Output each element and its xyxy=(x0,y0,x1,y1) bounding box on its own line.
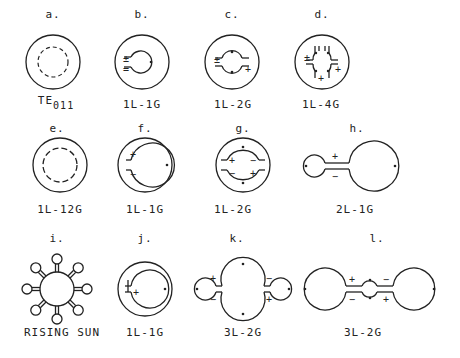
svg-text:−: − xyxy=(210,294,216,305)
panel-e-shape xyxy=(33,138,87,192)
panel-g-shape: + − − + xyxy=(216,138,270,192)
panel-k-shape: + − − + xyxy=(194,257,291,320)
svg-text:+: + xyxy=(130,149,136,160)
svg-text:−: − xyxy=(250,155,256,166)
svg-text:−: − xyxy=(130,169,136,180)
svg-text:−: − xyxy=(266,273,272,284)
svg-text:−: − xyxy=(383,274,389,285)
panel-f-shape: + − xyxy=(118,138,174,192)
svg-text:±: ± xyxy=(304,52,310,63)
svg-text:+: + xyxy=(349,274,355,285)
svg-text:+: + xyxy=(335,64,341,75)
svg-text:+: + xyxy=(383,294,389,305)
svg-text:+: + xyxy=(332,151,338,162)
svg-text:=: = xyxy=(123,64,129,75)
panel-a-shape xyxy=(26,35,80,89)
panel-i-shape xyxy=(22,254,92,324)
svg-text:−: − xyxy=(349,294,355,305)
panel-d-shape: ± + + xyxy=(295,35,349,89)
svg-text:+: + xyxy=(318,73,324,84)
panel-j-shape: + xyxy=(118,262,172,316)
svg-text:+: + xyxy=(245,64,251,75)
svg-text:−: − xyxy=(332,171,338,182)
svg-text:+: + xyxy=(133,287,139,298)
svg-text:+: + xyxy=(229,155,235,166)
panel-b-shape: ± = xyxy=(115,35,169,89)
panel-h-shape: + − xyxy=(303,141,398,191)
resonator-diagram: a. b. c. d. e. f. g. h. i. j. k. l. TE01… xyxy=(0,0,460,358)
svg-text:±: ± xyxy=(123,53,129,64)
panel-c-shape: ± + xyxy=(205,35,259,89)
svg-text:−: − xyxy=(229,168,235,179)
svg-text:+: + xyxy=(266,294,272,305)
panel-l-shape: + − − + xyxy=(304,268,436,310)
diagram-drawing: ± = ± + xyxy=(0,0,460,358)
svg-text:+: + xyxy=(210,273,216,284)
svg-text:+: + xyxy=(250,168,256,179)
svg-text:±: ± xyxy=(214,54,220,65)
